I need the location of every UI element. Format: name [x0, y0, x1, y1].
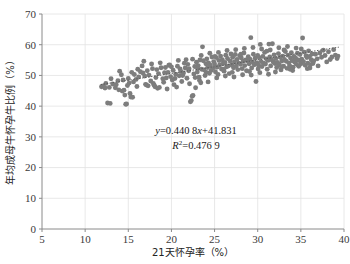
data-point — [145, 68, 150, 73]
data-point — [294, 46, 299, 51]
data-point — [121, 78, 126, 83]
data-point — [242, 63, 247, 68]
data-point — [158, 60, 163, 65]
data-point — [103, 86, 108, 91]
data-points-layer — [99, 35, 340, 107]
x-axis-title: 21天怀孕率（%） — [152, 246, 234, 258]
data-point — [200, 44, 205, 49]
data-point — [185, 62, 190, 67]
data-point — [259, 47, 264, 52]
r-squared-label: R2=0.476 9 — [171, 139, 219, 151]
data-point — [258, 42, 263, 47]
data-point — [296, 64, 301, 69]
y-axis-tick-label: 20 — [25, 161, 37, 173]
data-point — [336, 54, 341, 59]
data-point — [254, 79, 259, 84]
data-point — [165, 86, 170, 91]
data-point — [240, 72, 245, 77]
data-point — [216, 50, 221, 55]
data-point — [130, 95, 135, 100]
data-point — [172, 76, 177, 81]
data-point — [134, 84, 139, 89]
data-point — [270, 41, 275, 46]
x-axis-tick-label: 30 — [252, 233, 264, 245]
data-point — [233, 52, 238, 57]
y-axis-tick-label: 0 — [31, 223, 37, 235]
data-point — [141, 71, 146, 76]
data-point — [184, 57, 189, 62]
data-point — [149, 62, 154, 67]
y-axis-tick-label: 10 — [25, 192, 37, 204]
data-point — [276, 45, 281, 50]
data-point — [150, 66, 155, 71]
data-point — [179, 79, 184, 84]
data-point — [279, 64, 284, 69]
data-point — [125, 83, 130, 88]
x-axis-tick-label: 10 — [80, 233, 92, 245]
data-point — [249, 73, 254, 78]
x-axis-tick-label: 5 — [39, 233, 45, 245]
data-point — [180, 73, 185, 78]
data-point — [299, 47, 304, 52]
data-point — [197, 78, 202, 83]
data-point — [109, 76, 114, 81]
data-point — [315, 56, 320, 61]
data-point — [124, 102, 129, 107]
data-point — [257, 70, 262, 75]
data-point — [135, 67, 140, 72]
data-point — [122, 93, 127, 98]
data-point — [233, 47, 238, 52]
data-point — [140, 63, 145, 68]
data-point — [285, 44, 290, 49]
data-point — [288, 67, 293, 72]
data-point — [248, 35, 253, 40]
data-point — [193, 85, 198, 90]
x-axis-tick-label: 25 — [209, 233, 221, 245]
scatter-chart-figure: 010203040506070510152025303540 y=0.440 8… — [0, 0, 350, 264]
data-point — [273, 70, 278, 75]
data-point — [154, 67, 159, 72]
data-point — [119, 72, 124, 77]
data-point — [193, 75, 198, 80]
data-point — [141, 59, 146, 64]
data-point — [157, 85, 162, 90]
data-point — [204, 70, 209, 75]
data-point — [164, 75, 169, 80]
data-point — [251, 45, 256, 50]
x-axis-tick-label: 35 — [295, 233, 307, 245]
data-point — [268, 47, 273, 52]
data-point — [191, 93, 196, 98]
data-point — [223, 74, 228, 79]
data-point — [114, 82, 119, 87]
data-point — [185, 76, 190, 81]
data-point — [321, 48, 326, 53]
data-point — [213, 54, 218, 59]
data-point — [206, 79, 211, 84]
gridlines-layer — [42, 14, 344, 229]
data-point — [159, 65, 164, 70]
data-point — [221, 67, 226, 72]
data-point — [107, 85, 112, 90]
data-point — [305, 66, 310, 71]
regression-equation-label: y=0.440 8x+41.831 — [154, 125, 237, 136]
data-point — [199, 53, 204, 58]
data-point — [238, 52, 243, 57]
data-point — [166, 63, 171, 68]
y-axis-tick-label: 40 — [25, 100, 37, 112]
data-point — [266, 72, 271, 77]
data-point — [232, 75, 237, 80]
data-point — [235, 67, 240, 72]
data-point — [310, 61, 315, 66]
data-point — [108, 101, 113, 106]
x-axis-tick-label: 15 — [123, 233, 135, 245]
data-point — [122, 88, 127, 93]
annotation-layer: y=0.440 8x+41.831 R2=0.476 9 — [154, 125, 237, 151]
data-point — [323, 53, 328, 58]
data-point — [326, 49, 331, 54]
x-axis-tick-label: 20 — [166, 233, 178, 245]
data-point — [187, 81, 192, 86]
data-point — [242, 46, 247, 51]
y-axis-title: 年均成母牛怀孕牛比例（%） — [4, 55, 16, 185]
data-point — [161, 80, 166, 85]
data-point — [316, 63, 321, 68]
